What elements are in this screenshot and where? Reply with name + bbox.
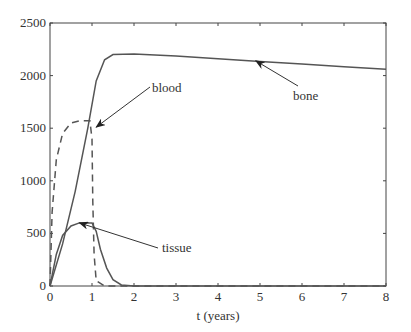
series-blood — [50, 121, 386, 286]
y-tick-label: 1000 — [20, 173, 46, 188]
annotation-blood: blood — [152, 80, 182, 95]
y-tick-label: 2000 — [20, 68, 46, 83]
series-tissue — [50, 223, 386, 286]
annotations: bonebloodtissue — [79, 61, 318, 255]
y-tick-label: 0 — [40, 278, 47, 293]
x-tick-label: 3 — [173, 289, 180, 304]
y-axis-ticks: 05001000150020002500 — [20, 15, 386, 293]
line-chart: 012345678 05001000150020002500 boneblood… — [0, 0, 411, 332]
x-tick-label: 8 — [383, 289, 390, 304]
x-axis-label: t (years) — [197, 308, 240, 323]
x-tick-label: 7 — [341, 289, 348, 304]
y-tick-label: 2500 — [20, 15, 46, 30]
x-tick-label: 0 — [47, 289, 54, 304]
x-tick-label: 5 — [257, 289, 264, 304]
x-tick-label: 1 — [89, 289, 96, 304]
annotation-bone: bone — [293, 88, 319, 103]
x-tick-label: 6 — [299, 289, 306, 304]
plot-series — [50, 54, 386, 286]
x-tick-label: 4 — [215, 289, 222, 304]
x-tick-label: 2 — [131, 289, 138, 304]
y-tick-label: 1500 — [20, 120, 46, 135]
annotation-tissue: tissue — [162, 240, 192, 255]
x-axis-ticks: 012345678 — [47, 23, 390, 304]
y-tick-label: 500 — [27, 225, 47, 240]
